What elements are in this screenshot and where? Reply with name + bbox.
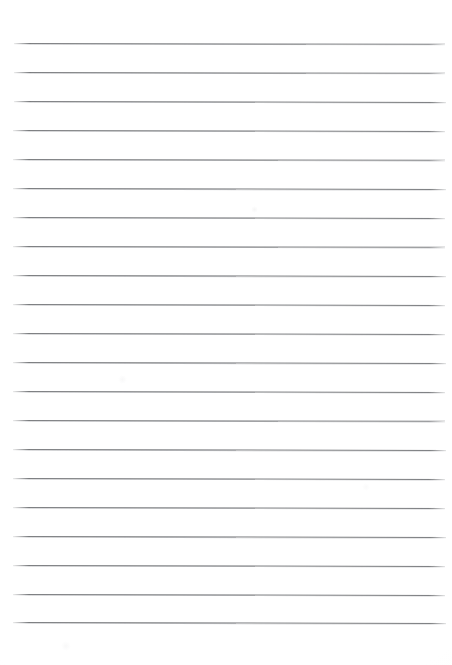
lined-paper-page xyxy=(0,0,452,665)
handwriting-text-area[interactable] xyxy=(0,0,452,665)
